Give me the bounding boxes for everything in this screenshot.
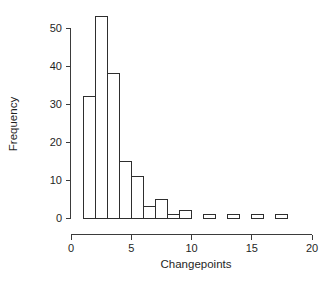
histogram-bar xyxy=(155,199,167,218)
histogram-bar xyxy=(119,161,131,218)
x-axis-tick-label: 10 xyxy=(185,242,197,254)
histogram-bar xyxy=(95,17,107,218)
y-axis-tick-label: 20 xyxy=(50,136,62,148)
histogram-bar xyxy=(204,214,216,218)
bars-group xyxy=(83,17,288,218)
histogram-bar xyxy=(276,214,288,218)
y-axis-tick-label: 30 xyxy=(50,98,62,110)
x-axis-tick-label: 20 xyxy=(306,242,318,254)
x-axis-tick-label: 0 xyxy=(68,242,74,254)
histogram-bar xyxy=(83,96,95,218)
x-axis-tick-label: 15 xyxy=(246,242,258,254)
y-axis-title: Frequency xyxy=(7,97,19,152)
x-axis-tick-label: 5 xyxy=(128,242,134,254)
histogram-bar xyxy=(131,176,143,218)
histogram-bar xyxy=(252,214,264,218)
y-axis-tick-label: 50 xyxy=(50,22,62,34)
plot-area: 01020304050 05101520 Changepoints Freque… xyxy=(0,0,332,284)
histogram-bar xyxy=(107,74,119,218)
histogram-bar xyxy=(228,214,240,218)
y-axis-tick-label: 10 xyxy=(50,174,62,186)
histogram-bar xyxy=(143,207,155,218)
x-axis: 05101520 xyxy=(68,235,318,254)
y-axis-tick-label: 40 xyxy=(50,60,62,72)
histogram-bar xyxy=(179,210,191,218)
histogram-chart: 01020304050 05101520 Changepoints Freque… xyxy=(0,0,332,284)
y-axis-tick-label: 0 xyxy=(56,212,62,224)
y-axis: 01020304050 xyxy=(50,22,71,224)
histogram-bar xyxy=(167,214,179,218)
x-axis-title: Changepoints xyxy=(161,258,232,270)
